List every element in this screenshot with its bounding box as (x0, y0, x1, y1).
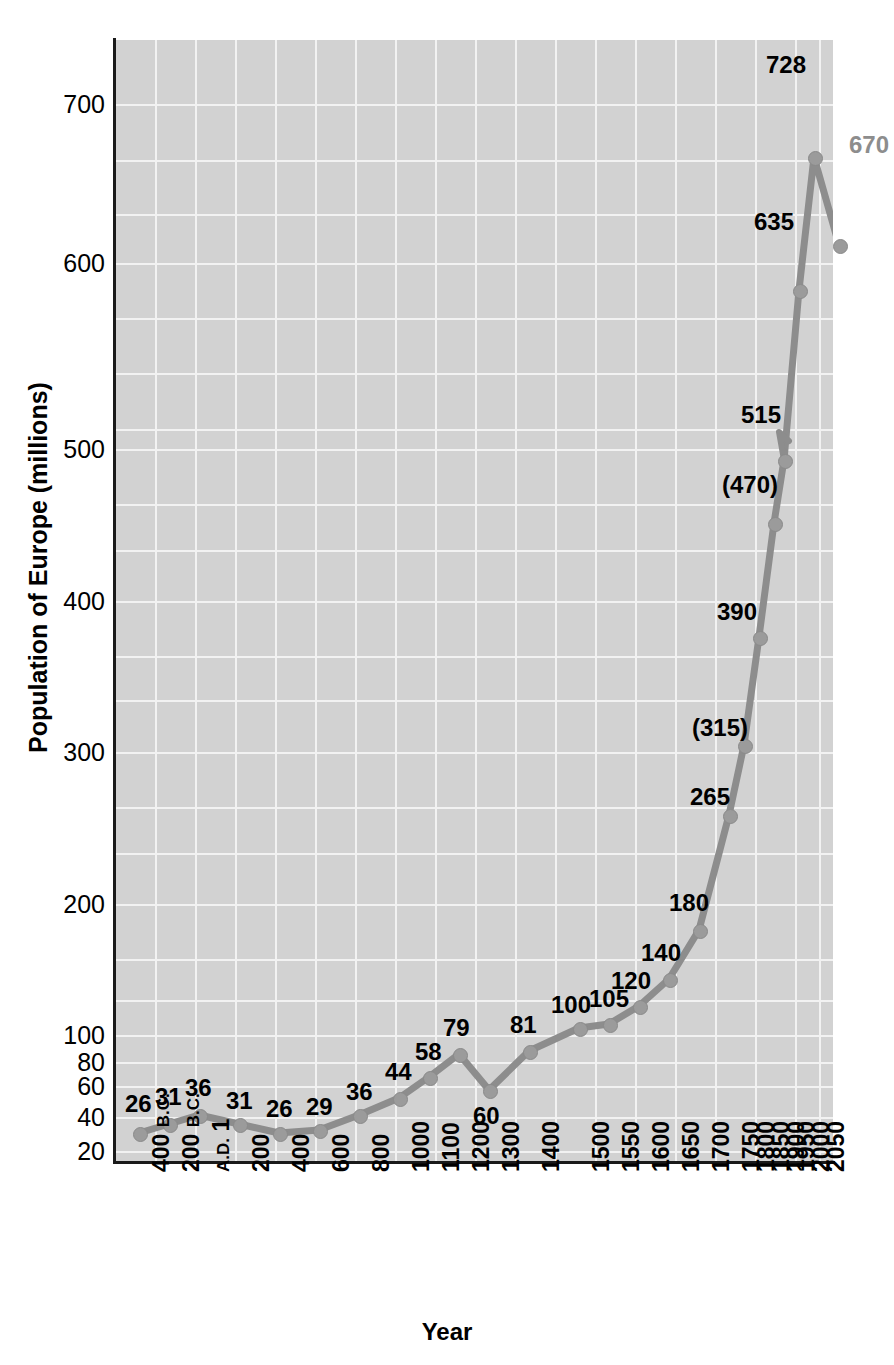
gridline-horizontal (115, 959, 833, 961)
gridline-horizontal (115, 904, 833, 906)
gridline-vertical (435, 40, 437, 1162)
gridline-vertical (635, 40, 637, 1162)
gridline-vertical (755, 40, 757, 1162)
gridline-horizontal (115, 656, 833, 658)
gridline-horizontal (115, 373, 833, 375)
gridline-horizontal (115, 429, 833, 431)
x-axis-tick-label: 800 (370, 1134, 393, 1172)
y-axis-tick-label: 20 (77, 1139, 105, 1164)
y-axis-tick-label: 80 (77, 1050, 105, 1075)
data-point-marker (833, 239, 848, 254)
gridline-vertical (275, 40, 277, 1162)
gridline-vertical (555, 40, 557, 1162)
gridline-horizontal (115, 214, 833, 216)
data-point-label: 670 (849, 133, 889, 157)
gridline-horizontal (115, 853, 833, 855)
y-axis-tick-labels: 20406080100200300400500600700 (0, 0, 105, 1365)
gridline-vertical (795, 40, 797, 1162)
gridline-vertical (675, 40, 677, 1162)
x-axis-tick-label: 1300 (500, 1121, 523, 1172)
x-axis-tick-label: A.D. 1 (210, 1119, 233, 1172)
y-axis-tick-label: 100 (63, 1023, 105, 1048)
x-axis-tick-label: 200 B.C. (180, 1093, 203, 1172)
y-axis-tick-label: 600 (63, 251, 105, 276)
gridline-vertical (819, 40, 821, 1162)
gridline-horizontal (115, 700, 833, 702)
x-axis-tick-label: 1100 (440, 1122, 463, 1172)
gridline-horizontal (115, 1000, 833, 1002)
gridline-horizontal (115, 160, 833, 162)
gridline-vertical (395, 40, 397, 1162)
y-axis-line (113, 38, 116, 1164)
gridlines (115, 40, 833, 1162)
gridline-horizontal (115, 807, 833, 809)
gridline-vertical (515, 40, 517, 1162)
x-axis-tick-label: 1500 (590, 1121, 613, 1172)
gridline-horizontal (115, 104, 833, 106)
y-axis-tick-label: 40 (77, 1105, 105, 1130)
x-axis-tick-label: 2050 (825, 1121, 848, 1172)
gridline-vertical (155, 40, 157, 1162)
y-axis-tick-label: 60 (77, 1074, 105, 1099)
y-axis-tick-label: 500 (63, 437, 105, 462)
x-axis-tick-label: 1400 (540, 1121, 563, 1172)
gridline-vertical (595, 40, 597, 1162)
x-axis-tick-label: 1700 (710, 1121, 733, 1172)
gridline-vertical (195, 40, 197, 1162)
x-axis-tick-label: 600 (330, 1134, 353, 1172)
y-axis-tick-label: 200 (63, 892, 105, 917)
x-axis-title: Year (0, 1318, 894, 1346)
x-axis-tick-label: 1600 (650, 1121, 673, 1172)
gridline-vertical (475, 40, 477, 1162)
gridline-vertical (355, 40, 357, 1162)
y-axis-title: Population of Europe (millions) (24, 288, 53, 848)
gridline-horizontal (115, 318, 833, 320)
y-axis-tick-label: 400 (63, 589, 105, 614)
x-axis-tick-label: 1200 (470, 1121, 493, 1172)
y-axis-tick-label: 700 (63, 92, 105, 117)
gridline-vertical (235, 40, 237, 1162)
gridline-horizontal (115, 1086, 833, 1088)
gridline-horizontal (115, 1062, 833, 1064)
x-axis-tick-label: 1550 (620, 1121, 643, 1172)
x-axis-tick-labels: 400 B.C.200 B.C.A.D. 1200400600800100011… (0, 1172, 894, 1312)
plot-area: 2631363126293644587960811001051201401802… (115, 40, 833, 1162)
x-axis-tick-label: 1650 (680, 1121, 703, 1172)
x-axis-tick-label: 400 (290, 1134, 313, 1172)
gridline-horizontal (115, 504, 833, 506)
y-axis-tick-label: 300 (63, 740, 105, 765)
gridline-vertical (715, 40, 717, 1162)
gridline-horizontal (115, 550, 833, 552)
x-axis-tick-label: 1000 (410, 1121, 433, 1172)
gridline-horizontal (115, 1035, 833, 1037)
gridline-horizontal (115, 752, 833, 754)
gridline-horizontal (115, 263, 833, 265)
chart-canvas: 2631363126293644587960811001051201401802… (0, 0, 894, 1365)
gridline-vertical (315, 40, 317, 1162)
x-axis-tick-label: 200 (250, 1134, 273, 1172)
gridline-horizontal (115, 449, 833, 451)
gridline-horizontal (115, 601, 833, 603)
x-axis-tick-label: 400 B.C. (150, 1093, 173, 1172)
